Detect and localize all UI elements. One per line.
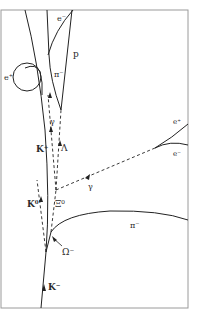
track-k-minus	[41, 252, 46, 308]
track-gamma-upper	[48, 95, 56, 190]
label-lambda: Λ	[60, 143, 68, 153]
track-gamma-lower	[56, 148, 155, 190]
label-pi-minus-top: π⁻	[54, 70, 63, 79]
track-proton	[61, 10, 72, 110]
label-e-minus-right: e⁻	[173, 150, 181, 158]
label-proton: p	[73, 49, 79, 59]
bubble-chamber-diagram: e⁻ p e⁺ π⁻ γ K⁺ Λ e⁺ e⁻ γ K⁰ Ξ⁰ π⁻ Ω⁻ K⁻	[0, 0, 198, 312]
track-pi-minus-right	[51, 211, 188, 232]
label-xi-zero: Ξ⁰	[55, 199, 65, 209]
arrow-k-zero	[39, 196, 43, 202]
label-omega-minus: Ω⁻	[62, 247, 74, 257]
track-k-plus	[25, 10, 48, 252]
arrow-gamma-upper	[48, 92, 52, 98]
omega-pointer	[53, 238, 62, 246]
track-e-plus-right	[155, 124, 188, 148]
label-gamma-upper: γ	[50, 117, 55, 126]
label-pi-minus-right: π⁻	[130, 221, 139, 230]
label-e-minus-top: e⁻	[57, 14, 66, 23]
track-xi-zero	[51, 190, 56, 232]
diagram-frame	[1, 10, 188, 308]
track-e-minus-right	[155, 143, 188, 148]
arrow-k-plus	[49, 126, 53, 132]
label-k-minus: K⁻	[48, 282, 61, 292]
label-e-plus-right: e⁺	[173, 118, 181, 126]
label-k-zero: K⁰	[27, 199, 39, 209]
label-gamma-lower: γ	[88, 182, 93, 191]
label-k-plus: K⁺	[36, 144, 49, 154]
track-k-zero	[37, 180, 46, 252]
arrow-gamma-lower	[85, 174, 90, 180]
label-e-plus-left: e⁺	[4, 73, 13, 82]
